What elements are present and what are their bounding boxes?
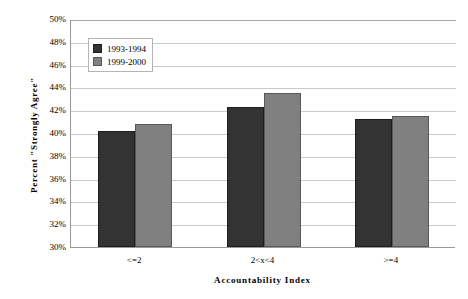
legend-item: 1999-2000 [93, 55, 146, 68]
bar [98, 131, 135, 247]
bar [264, 93, 301, 247]
bar [355, 119, 392, 247]
y-axis-tick-label: 50% [20, 14, 66, 24]
legend-item-label: 1993-1994 [107, 44, 146, 54]
y-axis-tick-label: 42% [20, 105, 66, 115]
y-axis-tick-label: 38% [20, 151, 66, 161]
y-axis-tick-label: 30% [20, 242, 66, 252]
legend-swatch-icon [93, 44, 102, 53]
y-axis-tick-label: 34% [20, 196, 66, 206]
bar [135, 124, 172, 247]
gridline [71, 88, 456, 89]
bar [227, 107, 264, 247]
legend-item: 1993-1994 [93, 42, 146, 55]
y-axis-tick-label: 46% [20, 60, 66, 70]
x-axis-tick-label: 2<x<4 [203, 255, 323, 265]
y-axis-tick-label: 32% [20, 219, 66, 229]
bar [392, 116, 429, 247]
y-axis-tick-label: 44% [20, 82, 66, 92]
x-axis-tick-label: >=4 [331, 255, 451, 265]
y-axis-tick-label: 36% [20, 174, 66, 184]
x-axis-title: Accountability Index [70, 275, 455, 285]
x-axis-tick-label: <=2 [74, 255, 194, 265]
y-axis-tick-label: 40% [20, 128, 66, 138]
chart-legend: 1993-1994 1999-2000 [88, 38, 153, 72]
gridline [71, 20, 456, 21]
legend-swatch-icon [93, 57, 102, 66]
bar-chart: Percent "Strongly Agree" 1993-1994 1999-… [0, 0, 468, 299]
y-axis-tick-label: 48% [20, 37, 66, 47]
legend-item-label: 1999-2000 [107, 57, 146, 67]
